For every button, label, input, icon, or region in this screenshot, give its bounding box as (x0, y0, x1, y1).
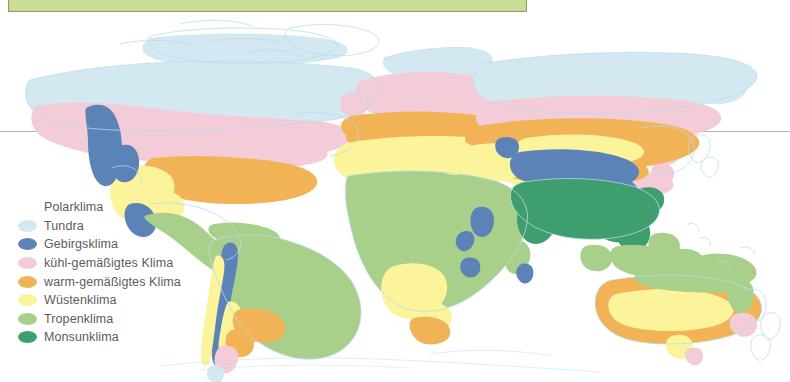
legend-label-7: Monsunklima (44, 330, 119, 344)
legend-swatch-icon-4 (18, 276, 37, 288)
legend-label-1: Tundra (44, 219, 84, 233)
legend-swatch-icon-3 (18, 257, 37, 269)
legend-item-1[interactable]: Tundra (18, 217, 218, 236)
legend-item-4[interactable]: warm-gemäßigtes Klima (18, 272, 218, 291)
title-banner (8, 0, 527, 12)
legend-label-4: warm-gemäßigtes Klima (44, 275, 181, 289)
region-australia-oceania (595, 267, 761, 366)
legend-label-3: kühl-gemäßigtes Klima (44, 256, 173, 270)
legend-swatch-icon-2 (18, 238, 37, 250)
legend-item-7[interactable]: Monsunklima (18, 328, 218, 347)
region-south-america (201, 233, 361, 382)
legend-label-5: Wüstenklima (44, 293, 117, 307)
legend-label-2: Gebirgsklima (44, 237, 118, 251)
title-banner-fill (10, 0, 525, 10)
legend-item-6[interactable]: Tropenklima (18, 310, 218, 329)
legend-item-2[interactable]: Gebirgsklima (18, 235, 218, 254)
legend-swatch-icon-1 (18, 220, 37, 232)
legend-label-6: Tropenklima (44, 312, 113, 326)
legend-label-0: Polarklima (44, 200, 103, 214)
legend-swatch-icon-7 (18, 331, 37, 343)
legend-item-3[interactable]: kühl-gemäßigtes Klima (18, 254, 218, 273)
legend-item-0[interactable]: Polarklima (18, 198, 218, 217)
legend-item-5[interactable]: Wüstenklima (18, 291, 218, 310)
climate-map-page: .tundra { fill:#d4e8f2; } .geb { fill:#5… (0, 0, 790, 382)
legend-swatch-icon-5 (18, 294, 37, 306)
map-legend: Polarklima Tundra Gebirgsklima kühl-gemä… (18, 198, 218, 347)
legend-swatch-icon-0 (18, 201, 37, 213)
legend-swatch-icon-6 (18, 313, 37, 325)
